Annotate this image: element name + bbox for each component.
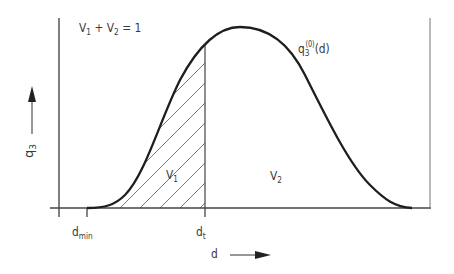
diagram-canvas	[0, 0, 454, 274]
curve-label: q3(0)(d)	[298, 40, 330, 58]
y-arrow-head-icon	[28, 86, 36, 102]
y-axis-label: q3	[21, 144, 38, 158]
x-arrow-head-icon	[255, 251, 271, 259]
hatch-area-v1	[0, 8, 400, 208]
tick-label-dt: dt	[196, 224, 206, 241]
tick-label-dmin: dmin	[72, 224, 93, 241]
region-label-v1: V1	[166, 167, 178, 184]
region-label-v2: V2	[270, 168, 282, 185]
density-curve	[87, 27, 412, 208]
x-axis-label: d	[211, 246, 218, 261]
equation-label: V1 + V2 = 1	[79, 20, 141, 37]
